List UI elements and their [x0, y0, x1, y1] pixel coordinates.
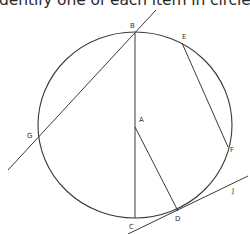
chord-ef	[182, 43, 228, 147]
circle-diagram: A B C D E F G J	[0, 0, 250, 234]
label-e: E	[182, 33, 186, 41]
tangent-dj	[128, 176, 248, 234]
label-b: B	[130, 22, 135, 30]
secant-bg	[8, 10, 156, 170]
label-j: J	[231, 187, 234, 195]
label-a: A	[139, 116, 144, 124]
radius-ad	[135, 127, 178, 211]
label-f: F	[230, 146, 234, 154]
label-d: D	[175, 215, 180, 223]
label-g: G	[27, 132, 32, 140]
label-c: C	[129, 223, 134, 231]
